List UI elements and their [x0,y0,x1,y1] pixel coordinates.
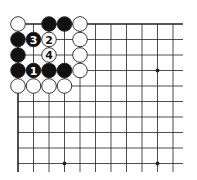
star-point [63,162,67,166]
white-stone: 2 [42,32,57,47]
move-number-label: 3 [30,34,38,47]
move-number-label: 1 [30,65,38,78]
white-stone [57,79,72,94]
black-stone [42,63,57,78]
black-stone [57,17,72,32]
go-board: 3241 [0,0,197,180]
white-stone: 4 [42,48,57,63]
black-stone [42,17,57,32]
black-stone [57,63,72,78]
black-stone: 3 [26,32,41,47]
star-point [156,162,160,166]
star-point [156,69,160,73]
white-stone [73,63,88,78]
white-stone [73,48,88,63]
move-number-label: 2 [45,34,53,47]
black-stone [11,32,26,47]
stones-layer: 3241 [11,17,88,94]
black-stone [11,48,26,63]
white-stone [42,79,57,94]
white-stone [26,79,41,94]
board-grid [18,24,183,172]
black-stone: 1 [26,63,41,78]
white-stone [73,32,88,47]
move-number-label: 4 [45,49,53,62]
black-stone [11,63,26,78]
white-stone [73,17,88,32]
white-stone [11,79,26,94]
white-stone [11,17,26,32]
